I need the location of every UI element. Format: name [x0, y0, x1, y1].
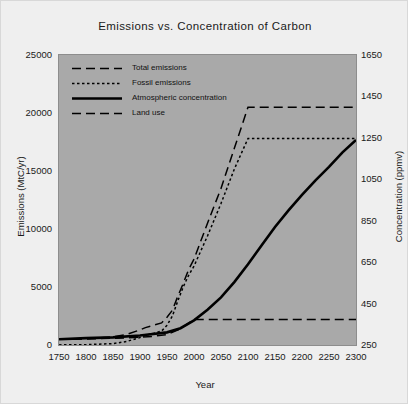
series-line: [59, 140, 356, 339]
x-axis-label: Year: [1, 379, 408, 390]
y-tick-right: 1250: [361, 132, 382, 143]
y-tick-right: 1650: [361, 49, 382, 60]
y-tick-left: 5000: [4, 281, 52, 292]
y-tick-right: 250: [361, 339, 377, 350]
y-tick-left: 10000: [4, 223, 52, 234]
y-tick-left: 25000: [4, 49, 52, 60]
chart-title: Emissions vs. Concentration of Carbon: [1, 20, 408, 32]
legend-item: Fossil emissions: [71, 76, 251, 91]
legend-label: Total emissions: [132, 63, 187, 72]
legend-label: Atmospheric concentration: [132, 93, 227, 102]
legend-item: Land use: [71, 106, 251, 121]
y-tick-right: 1450: [361, 90, 382, 101]
y-tick-right: 850: [361, 215, 377, 226]
plot-area: Total emissionsFossil emissionsAtmospher…: [58, 54, 357, 346]
chart-figure: Emissions vs. Concentration of Carbon Em…: [0, 0, 408, 404]
legend-item: Total emissions: [71, 61, 251, 76]
y-tick-right: 650: [361, 256, 377, 267]
y-tick-right: 450: [361, 298, 377, 309]
y-axis-label-right: Concentration (ppmv): [393, 142, 404, 252]
legend-item: Atmospheric concentration: [71, 91, 251, 106]
legend-label: Land use: [132, 108, 165, 117]
legend-swatch: [71, 76, 123, 91]
legend-swatch: [71, 91, 123, 106]
series-line: [59, 107, 356, 339]
legend-swatch: [71, 106, 123, 121]
legend-label: Fossil emissions: [132, 78, 191, 87]
y-tick-left: 20000: [4, 107, 52, 118]
legend-swatch: [71, 61, 123, 76]
chart-legend: Total emissionsFossil emissionsAtmospher…: [71, 61, 251, 121]
y-tick-right: 1050: [361, 173, 382, 184]
x-tick: 2300: [336, 351, 376, 362]
y-tick-left: 0: [4, 339, 52, 350]
y-tick-left: 15000: [4, 165, 52, 176]
series-line: [59, 139, 356, 345]
